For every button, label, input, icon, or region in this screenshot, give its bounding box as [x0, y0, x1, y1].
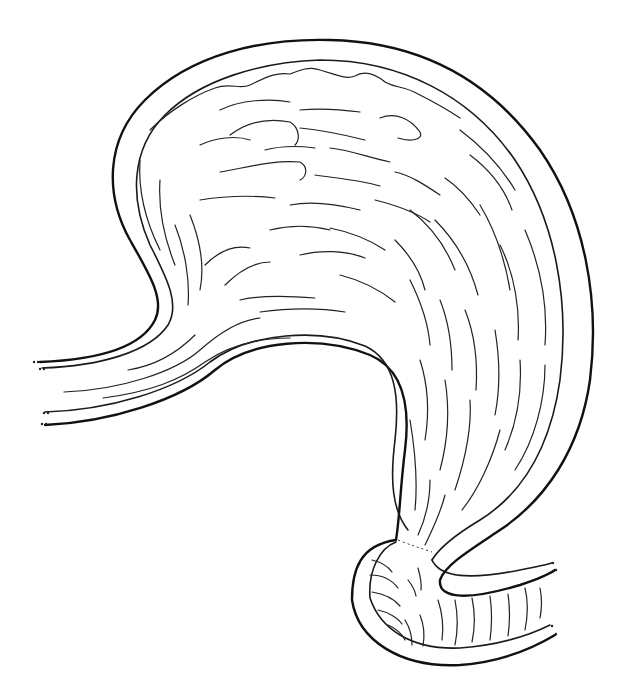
body-rugae [140, 160, 546, 545]
fundus-rugae [150, 68, 515, 222]
esophagus-folds [64, 318, 290, 398]
stomach-illustration [0, 0, 628, 700]
inner-wall [42, 60, 563, 648]
